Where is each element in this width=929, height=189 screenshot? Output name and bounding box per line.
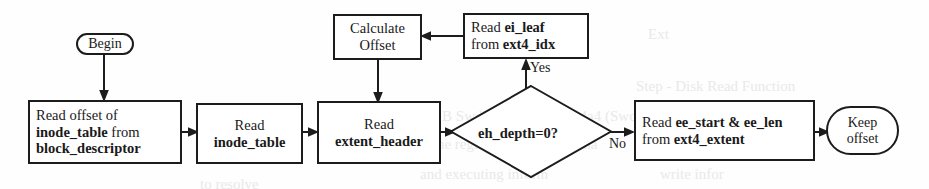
node-read-ee-start-line1-bold: ee_start & ee_len — [675, 114, 782, 130]
node-read-ee-start-line1: Read ee_start & ee_len — [642, 114, 783, 131]
bleed-through-text: Step - Disk Read Function — [636, 78, 795, 95]
node-read-ee-start-line2-bold: ext4_extent — [674, 131, 745, 147]
node-begin-label: Begin — [88, 36, 121, 52]
node-read-offset-line2: inode_table from — [36, 124, 140, 141]
node-read-ee-start-line2-pre: from — [642, 131, 674, 147]
edge-calculate-offset-to-extent-header — [370, 60, 390, 106]
node-read-offset-of-inode-table[interactable]: Read offset of inode_table from block_de… — [28, 100, 182, 164]
node-calculate-offset-line2: Offset — [360, 37, 396, 54]
node-begin[interactable]: Begin — [76, 33, 134, 55]
node-calculate-offset[interactable]: Calculate Offset — [333, 14, 422, 60]
node-read-offset-line3: block_descriptor — [36, 140, 141, 157]
edge-begin-to-read-offset — [96, 52, 116, 104]
node-read-offset-line3-bold: block_descriptor — [36, 140, 141, 156]
node-read-ei-leaf-line2-bold: ext4_idx — [503, 36, 555, 52]
node-read-inode-table-line2-bold: inode_table — [214, 134, 286, 150]
node-read-extent-header-line1: Read — [364, 116, 394, 133]
node-read-ee-start[interactable]: Read ee_start & ee_len from ext4_extent — [634, 100, 815, 161]
edge-label-no: No — [609, 136, 626, 152]
node-read-inode-table-line2: inode_table — [214, 134, 286, 151]
node-read-ee-start-line2: from ext4_extent — [642, 131, 745, 148]
node-read-offset-line2-bold: inode_table — [36, 124, 108, 140]
node-read-offset-line1: Read offset of — [36, 107, 118, 124]
edge-label-yes: Yes — [530, 60, 550, 76]
node-keep-offset-line1: Keep — [848, 115, 878, 131]
edge-read-ei-leaf-to-calculate-offset — [418, 28, 468, 44]
node-read-ei-leaf[interactable]: Read ei_leaf from ext4_idx — [463, 13, 589, 59]
node-read-ei-leaf-line1-bold: ei_leaf — [504, 19, 544, 35]
flowchart-canvas: Ext Step - Disk Read Function the B SwdB… — [0, 0, 929, 189]
bleed-through-text: Ext — [648, 26, 669, 43]
node-read-ei-leaf-line1: Read ei_leaf — [471, 19, 545, 36]
edge-extent-header-to-decision — [440, 124, 458, 140]
node-read-ei-leaf-line1-pre: Read — [471, 19, 504, 35]
node-read-inode-table-line1: Read — [235, 117, 265, 134]
bleed-through-text: to resolve — [200, 176, 259, 189]
node-read-ei-leaf-line2-pre: from — [471, 36, 503, 52]
node-read-extent-header-line2: extent_header — [335, 133, 423, 150]
node-read-ei-leaf-line2: from ext4_idx — [471, 36, 555, 53]
bleed-through-text: the B SwdBse4a4.SwdBse4a4 (SwdB) — [420, 108, 652, 125]
node-decision-label: eh_depth=0? — [478, 125, 558, 142]
node-calculate-offset-line1: Calculate — [350, 20, 405, 37]
node-read-extent-header[interactable]: Read extent_header — [317, 101, 441, 164]
bleed-through-text: and executing inform — [420, 166, 548, 183]
node-keep-offset[interactable]: Keep offset — [826, 106, 899, 155]
bleed-through-text: write infor — [660, 166, 724, 183]
node-read-ee-start-line1-pre: Read — [642, 114, 675, 130]
node-read-offset-line2-rest: from — [108, 124, 140, 140]
node-read-extent-header-line2-bold: extent_header — [335, 133, 423, 149]
node-keep-offset-line2: offset — [847, 131, 879, 147]
node-read-inode-table[interactable]: Read inode_table — [196, 103, 303, 164]
